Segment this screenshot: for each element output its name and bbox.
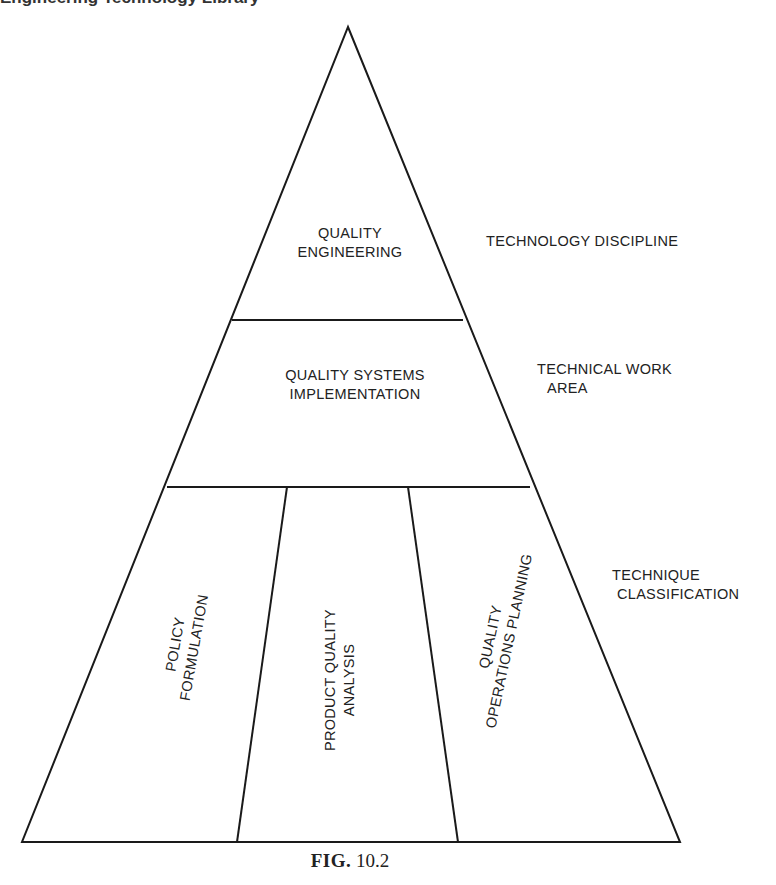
side-label-technique-classification: TECHNIQUE CLASSIFICATION [612,566,739,604]
tier-top-line-2: ENGINEERING [270,243,430,262]
figure-caption: FIG. 10.2 [0,850,700,872]
tier-top-label: QUALITY ENGINEERING [270,224,430,262]
pyramid-diagram [0,0,776,885]
section-divider-left [237,487,287,842]
tier-middle-label: QUALITY SYSTEMS IMPLEMENTATION [245,366,465,404]
side-label-line: TECHNIQUE [612,566,739,585]
section-line: ANALYSIS [340,605,359,755]
side-label-line: TECHNOLOGY DISCIPLINE [486,232,678,251]
side-label-line: CLASSIFICATION [612,585,739,604]
caption-number: 10.2 [356,850,389,871]
section-line: PRODUCT QUALITY [321,605,340,755]
section-product-quality-analysis: PRODUCT QUALITY ANALYSIS [321,605,359,755]
tier-middle-line-1: QUALITY SYSTEMS [245,366,465,385]
tier-top-line-1: QUALITY [270,224,430,243]
side-label-technical-work-area: TECHNICAL WORK AREA [537,360,672,398]
side-label-line: AREA [537,379,672,398]
tier-middle-line-2: IMPLEMENTATION [245,385,465,404]
caption-prefix: FIG. [311,850,352,871]
side-label-line: TECHNICAL WORK [537,360,672,379]
side-label-technology-discipline: TECHNOLOGY DISCIPLINE [486,232,678,251]
section-divider-right [408,487,458,842]
